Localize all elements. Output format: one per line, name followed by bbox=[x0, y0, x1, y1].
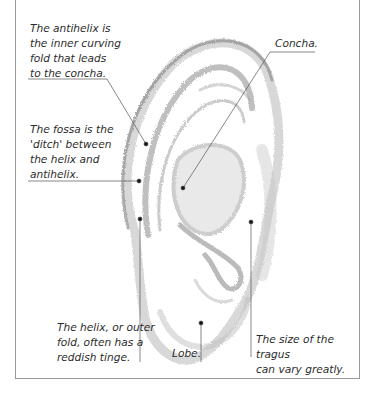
label-antihelix: The antihelix is the inner curving fold … bbox=[30, 21, 121, 81]
label-concha: Concha. bbox=[275, 36, 318, 51]
label-tragus: The size of the tragus can vary greatly. bbox=[256, 332, 371, 377]
label-lobe: Lobe. bbox=[172, 346, 201, 361]
label-fossa: The fossa is the 'ditch' between the hel… bbox=[30, 122, 113, 182]
label-helix: The helix, or outer fold, often has a re… bbox=[57, 320, 155, 365]
